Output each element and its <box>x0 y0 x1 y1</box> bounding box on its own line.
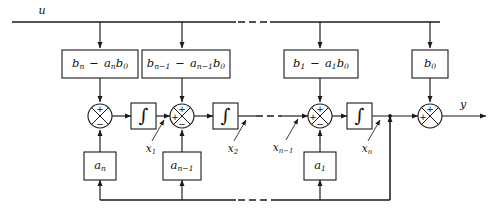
sum2-sign-left: + <box>171 112 179 122</box>
state-label-x1: x1 <box>146 143 156 154</box>
feedback-boxes-group <box>84 152 336 180</box>
sum3-sign-top: + <box>316 104 324 114</box>
block-diagram: u y bn − anb0 bn−1 − an−1b0 b1 − a1b0 b0… <box>0 0 495 219</box>
junction-dots-group <box>388 114 392 118</box>
sum3-sign-bottom: − <box>316 119 324 129</box>
feedforward-label-bn1: bn−1 − an−1b0 <box>147 58 225 70</box>
junction-dot-xn <box>388 114 392 118</box>
sum2-sign-bottom: − <box>178 119 186 129</box>
feedback-label-a1: a1 <box>314 160 326 172</box>
integral-icon-2: ∫ <box>221 104 231 126</box>
leader-xn1 <box>286 119 298 140</box>
sum1-sign-bottom: − <box>96 119 104 129</box>
state-label-xn: xn <box>362 143 372 154</box>
feedforward-label-b0: b0 <box>424 58 436 70</box>
input-drops-group <box>100 22 430 48</box>
sumout-sign-left: + <box>419 112 427 122</box>
feedforward-label-bn: bn − anb0 <box>72 58 128 70</box>
integral-icon-n: ∫ <box>355 104 365 126</box>
state-label-xn1: xn−1 <box>273 142 294 153</box>
feedback-label-an1: an−1 <box>171 160 194 172</box>
sum3-sign-left: + <box>309 112 317 122</box>
feedforward-drops-group <box>100 78 430 102</box>
feedback-label-an: an <box>94 160 106 172</box>
diagram-canvas <box>0 0 495 219</box>
feedforward-label-b1: b1 − a1b0 <box>293 58 349 70</box>
state-label-x2: x2 <box>228 143 238 154</box>
input-label-u: u <box>38 5 45 16</box>
sum1-sign-top: + <box>96 104 104 114</box>
sum2-sign-top: + <box>178 104 186 114</box>
integral-icon-1: ∫ <box>139 104 149 126</box>
sumout-sign-top: + <box>426 104 434 114</box>
output-label-y: y <box>460 99 466 110</box>
